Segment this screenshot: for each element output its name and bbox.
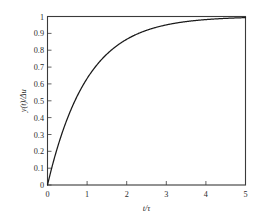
y-tick-label-9: 0.9 bbox=[34, 29, 44, 38]
y-tick-label-5: 0.5 bbox=[34, 97, 44, 106]
figure-container: 0 0.1 0.2 0.3 0.4 0.5 0.6 0.7 0.8 0.9 1 … bbox=[0, 0, 267, 217]
y-tick-label-8: 0.8 bbox=[34, 46, 44, 55]
x-tick-label-2: 2 bbox=[125, 190, 129, 199]
x-axis-title: t/τ bbox=[143, 204, 152, 213]
x-tick-label-3: 3 bbox=[164, 190, 168, 199]
x-tick-label-1: 1 bbox=[85, 190, 89, 199]
y-tick-label-2: 0.2 bbox=[34, 147, 44, 156]
y-tick-label-7: 0.7 bbox=[34, 63, 44, 72]
x-tick-label-4: 4 bbox=[204, 190, 208, 199]
y-tick-label-10: 1 bbox=[40, 13, 44, 22]
step-response-chart: 0 0.1 0.2 0.3 0.4 0.5 0.6 0.7 0.8 0.9 1 … bbox=[0, 0, 267, 217]
y-tick-label-6: 0.6 bbox=[34, 80, 44, 89]
y-tick-label-3: 0.3 bbox=[34, 131, 44, 140]
y-tick-label-0: 0 bbox=[40, 181, 44, 190]
x-tick-label-0: 0 bbox=[45, 190, 49, 199]
y-axis-title: y(t)/Δu bbox=[19, 89, 28, 113]
y-tick-label-1: 0.1 bbox=[34, 164, 44, 173]
x-tick-label-5: 5 bbox=[243, 190, 247, 199]
y-tick-label-4: 0.4 bbox=[34, 114, 44, 123]
